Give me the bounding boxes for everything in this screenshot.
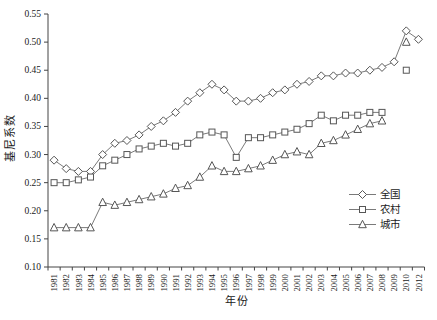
triangle-marker — [378, 117, 386, 124]
diamond-marker — [135, 131, 143, 139]
triangle-marker — [330, 136, 338, 143]
x-tick-label: 1989 — [146, 273, 156, 291]
diamond-marker — [50, 156, 58, 164]
diamond-marker — [366, 66, 374, 74]
x-tick-label: 2001 — [292, 274, 302, 292]
x-tick-label: 1990 — [159, 273, 169, 291]
x-tick-label: 1982 — [61, 274, 71, 292]
square-marker — [197, 132, 203, 138]
x-tick-label: 1985 — [98, 273, 108, 291]
triangle-marker — [50, 223, 58, 230]
square-marker — [355, 112, 361, 118]
triangle-marker — [99, 198, 107, 205]
legend-label: 城市 — [380, 219, 400, 230]
square-marker — [221, 132, 227, 138]
diamond-marker — [342, 69, 350, 77]
x-tick-label: 2002 — [304, 274, 314, 292]
x-tick-label: 1997 — [244, 273, 254, 291]
y-tick-label: 0.20 — [24, 206, 41, 216]
triangle-marker — [354, 125, 362, 132]
x-tick-label: 1988 — [134, 273, 144, 291]
diamond-marker — [147, 122, 155, 130]
diamond-marker — [244, 97, 252, 105]
triangle-marker — [342, 131, 350, 138]
square-marker — [160, 140, 166, 146]
diamond-marker — [123, 137, 131, 145]
square-marker — [379, 109, 385, 115]
x-tick-label: 1992 — [183, 274, 193, 292]
y-tick-label: 0.35 — [24, 121, 41, 131]
diamond-marker — [329, 72, 337, 80]
x-tick-label: 2007 — [365, 273, 375, 291]
square-marker — [124, 152, 130, 158]
y-axis-title: 基尼系数 — [1, 98, 15, 178]
y-tick-label: 0.55 — [24, 9, 41, 19]
diamond-marker — [317, 72, 325, 80]
x-tick-label: 1999 — [268, 273, 278, 291]
x-tick-label: 2000 — [280, 273, 290, 291]
square-marker — [112, 157, 118, 163]
diamond-marker — [354, 69, 362, 77]
x-tick-label: 1986 — [110, 273, 120, 291]
x-tick-label: 1987 — [122, 273, 132, 291]
series-line-1 — [54, 70, 406, 183]
legend-label: 全国 — [380, 189, 400, 200]
y-tick-label: 0.45 — [24, 65, 41, 75]
triangle-marker — [269, 156, 277, 163]
triangle-marker — [87, 223, 95, 230]
x-axis-title: 年份 — [48, 292, 425, 308]
x-tick-label: 2012 — [414, 274, 424, 292]
triangle-marker — [62, 223, 70, 230]
legend: 全国农村城市 — [349, 189, 400, 230]
square-marker — [233, 154, 239, 160]
triangle-marker — [75, 223, 83, 230]
square-marker — [209, 129, 215, 135]
diamond-marker — [390, 58, 398, 66]
y-tick-label: 0.30 — [24, 150, 41, 160]
diamond-marker — [257, 94, 265, 102]
x-tick-label: 1994 — [207, 273, 217, 291]
square-marker — [51, 180, 57, 186]
square-marker — [282, 129, 288, 135]
gini-line-chart: 0.100.150.200.250.300.350.400.450.500.55… — [0, 0, 437, 320]
x-tick-label: 2004 — [329, 273, 339, 291]
x-tick-label: 1991 — [171, 274, 181, 292]
y-tick-label: 0.15 — [24, 234, 41, 244]
legend-marker-triangle-icon — [349, 219, 376, 230]
diamond-marker — [402, 27, 410, 35]
square-marker — [294, 126, 300, 132]
legend-item-0: 全国 — [349, 189, 400, 200]
diamond-marker — [159, 117, 167, 125]
square-marker — [330, 118, 336, 124]
y-tick-label: 0.50 — [24, 37, 41, 47]
square-marker — [403, 67, 409, 73]
square-marker — [245, 135, 251, 141]
legend-item-1: 农村 — [349, 204, 400, 215]
square-marker — [100, 163, 106, 169]
square-marker — [148, 143, 154, 149]
x-tick-label: 1993 — [195, 273, 205, 291]
square-marker — [173, 143, 179, 149]
y-tick-label: 0.40 — [24, 93, 41, 103]
diamond-marker — [74, 167, 82, 175]
square-marker — [306, 121, 312, 127]
square-marker — [63, 180, 69, 186]
x-tick-label: 1998 — [256, 273, 266, 291]
square-marker — [270, 132, 276, 138]
x-tick-label: 2003 — [316, 273, 326, 291]
square-marker — [343, 112, 349, 118]
diamond-marker — [208, 80, 216, 88]
square-marker — [75, 177, 81, 183]
triangle-marker — [220, 167, 228, 174]
x-tick-label: 1981 — [49, 274, 59, 292]
diamond-marker — [293, 80, 301, 88]
x-tick-label: 1984 — [86, 273, 96, 291]
square-marker — [136, 146, 142, 152]
diamond-marker — [62, 165, 70, 173]
x-tick-label: 2008 — [377, 273, 387, 291]
triangle-marker — [208, 162, 216, 169]
square-marker — [367, 109, 373, 115]
triangle-marker — [184, 181, 192, 188]
triangle-marker — [257, 162, 265, 169]
gini-chart-figure: 0.100.150.200.250.300.350.400.450.500.55… — [0, 0, 437, 320]
